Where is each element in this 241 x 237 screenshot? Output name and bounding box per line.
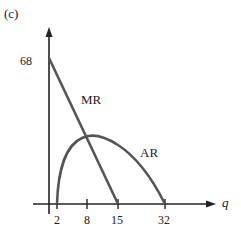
tick-label-2: 2	[54, 213, 60, 227]
x-axis-arrow-icon	[206, 201, 216, 208]
tick-label-8: 8	[84, 213, 90, 227]
y-axis-arrow-icon	[46, 27, 53, 37]
tick-label-32: 32	[158, 213, 170, 227]
x-axis-label: q	[222, 195, 229, 210]
y-value-68: 68	[20, 54, 32, 68]
revenue-diagram: 68 MR AR q 2 8 15 32	[0, 0, 241, 237]
mr-label: MR	[81, 92, 102, 107]
tick-label-15: 15	[111, 213, 123, 227]
ar-label: AR	[140, 145, 158, 160]
